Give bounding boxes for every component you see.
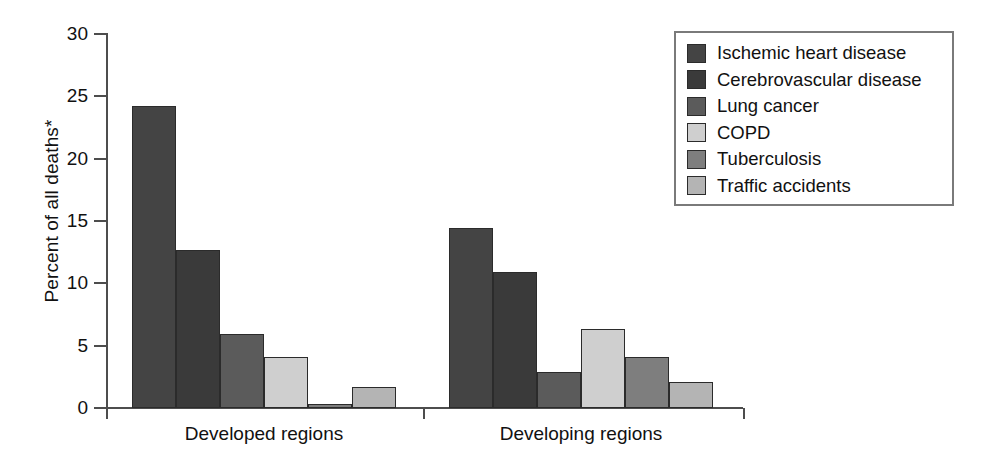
bar	[220, 334, 264, 408]
x-axis-tick	[743, 408, 745, 419]
legend-label: Traffic accidents	[717, 177, 851, 196]
bar	[625, 357, 669, 408]
x-axis-tick	[106, 408, 108, 419]
bar	[493, 272, 537, 408]
legend-item[interactable]: Lung cancer	[676, 93, 952, 120]
y-axis-tick	[94, 95, 106, 97]
legend-swatch-lung-cancer	[687, 97, 706, 116]
y-axis-tick-label: 30	[34, 23, 88, 45]
bar	[264, 357, 308, 408]
bar	[581, 329, 625, 408]
legend-item[interactable]: Ischemic heart disease	[676, 40, 952, 67]
y-axis-tick	[94, 220, 106, 222]
x-axis-tick	[423, 408, 425, 419]
legend-swatch-cerebrovascular-disease	[687, 70, 706, 89]
bar	[352, 387, 396, 408]
legend-box: Ischemic heart disease Cerebrovascular d…	[674, 31, 954, 206]
bar	[537, 372, 581, 408]
y-axis-tick-label: 25	[34, 85, 88, 107]
legend-label: Lung cancer	[717, 97, 819, 116]
y-axis-tick-label: 15	[34, 210, 88, 232]
legend-label: Ischemic heart disease	[717, 44, 906, 63]
x-axis-group-label: Developing regions	[500, 423, 663, 445]
legend-swatch-traffic-accidents	[687, 176, 706, 195]
legend-item[interactable]: COPD	[676, 120, 952, 147]
legend-label: Tuberculosis	[717, 150, 821, 169]
legend-swatch-tuberculosis	[687, 150, 706, 169]
bar-chart-figure: Percent of all deaths* 051015202530 Deve…	[0, 0, 992, 457]
legend-swatch-copd	[687, 123, 706, 142]
x-axis-group-label: Developed regions	[185, 423, 343, 445]
y-axis-tick	[94, 407, 106, 409]
bar	[176, 250, 220, 408]
bar	[669, 382, 713, 408]
legend-item[interactable]: Tuberculosis	[676, 146, 952, 173]
y-axis-tick-label: 0	[34, 397, 88, 419]
y-axis-tick	[94, 158, 106, 160]
y-axis-tick	[94, 345, 106, 347]
plot-area	[106, 34, 742, 408]
y-axis-tick-label: 20	[34, 148, 88, 170]
legend-label: Cerebrovascular disease	[717, 71, 922, 90]
y-axis-tick-label: 5	[34, 335, 88, 357]
y-axis-tick	[94, 33, 106, 35]
legend-item[interactable]: Traffic accidents	[676, 173, 952, 200]
bar	[132, 106, 176, 408]
legend-item[interactable]: Cerebrovascular disease	[676, 67, 952, 94]
y-axis-tick-label: 10	[34, 272, 88, 294]
legend-swatch-ischemic-heart-disease	[687, 44, 706, 63]
bar	[449, 228, 493, 408]
legend-label: COPD	[717, 124, 770, 143]
y-axis-tick	[94, 282, 106, 284]
bar	[308, 404, 352, 408]
